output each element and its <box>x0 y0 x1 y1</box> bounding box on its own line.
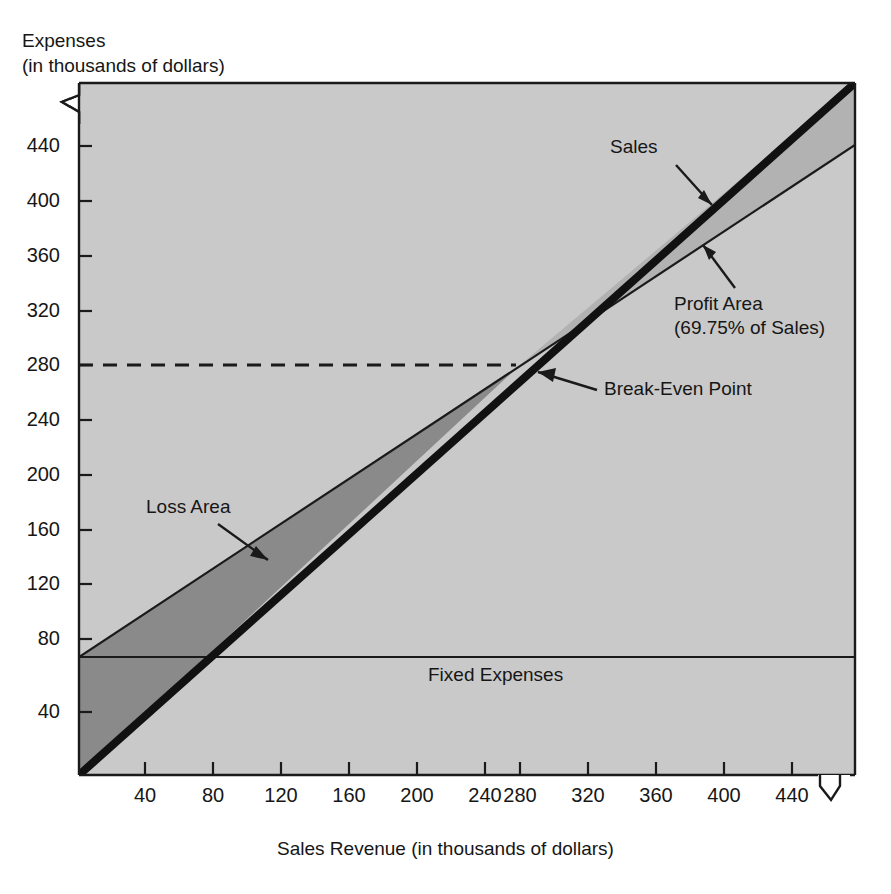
plot-area <box>0 0 891 894</box>
y-tick-label: 240 <box>0 408 60 431</box>
y-tick-label: 400 <box>0 189 60 212</box>
y-tick-label: 320 <box>0 299 60 322</box>
x-tick-label: 280 <box>490 784 550 807</box>
x-tick-label: 160 <box>319 784 379 807</box>
y-tick-label: 360 <box>0 244 60 267</box>
x-tick-label: 320 <box>558 784 618 807</box>
fixed-expenses-label: Fixed Expenses <box>428 663 563 687</box>
y-tick-label: 40 <box>0 700 60 723</box>
x-axis-title: Sales Revenue (in thousands of dollars) <box>0 836 891 861</box>
break-even-chart: Expenses(in thousands of dollars) <box>0 0 891 894</box>
y-tick-label: 280 <box>0 353 60 376</box>
y-tick-label: 160 <box>0 518 60 541</box>
profit-area-label-line2: (69.75% of Sales) <box>674 317 825 338</box>
x-tick-label: 80 <box>183 784 243 807</box>
x-tick-label: 360 <box>626 784 686 807</box>
x-tick-label: 200 <box>387 784 447 807</box>
loss-area-label: Loss Area <box>146 495 231 519</box>
x-tick-label: 120 <box>251 784 311 807</box>
y-tick-label: 440 <box>0 134 60 157</box>
y-tick-label: 200 <box>0 463 60 486</box>
x-tick-label: 440 <box>762 784 822 807</box>
profit-area-label-line1: Profit Area <box>674 293 763 314</box>
x-tick-label: 400 <box>694 784 754 807</box>
y-tick-label: 80 <box>0 627 60 650</box>
x-tick-label: 40 <box>115 784 175 807</box>
y-tick-label: 120 <box>0 572 60 595</box>
sales-label: Sales <box>610 135 658 159</box>
break-even-point-label: Break-Even Point <box>604 377 752 401</box>
profit-area-label: Profit Area(69.75% of Sales) <box>674 292 825 340</box>
